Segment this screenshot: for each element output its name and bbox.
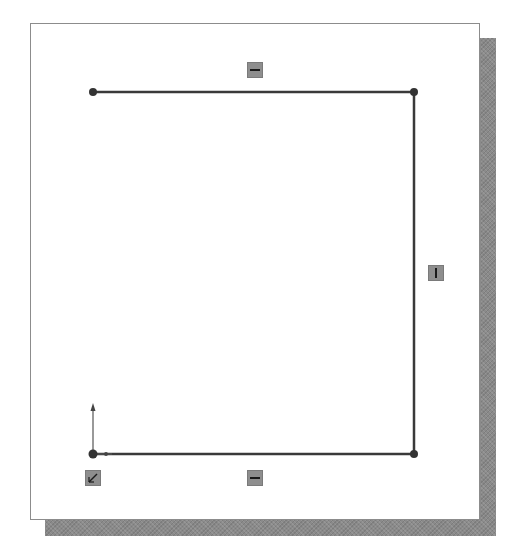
origin-axes-icon: [91, 403, 113, 456]
fixed-relation-icon[interactable]: [85, 470, 101, 486]
sketch-point-bottom-right[interactable]: [410, 450, 418, 458]
sketch-point-bottom-left[interactable]: [89, 450, 98, 459]
vertical-glyph: [435, 268, 437, 278]
vertical-relation-icon[interactable]: [428, 265, 444, 281]
horizontal-glyph: [250, 69, 260, 71]
fixed-glyph: [85, 470, 101, 486]
sketch-point-top-left[interactable]: [89, 88, 97, 96]
sketch-point-top-right[interactable]: [410, 88, 418, 96]
horizontal-glyph: [250, 477, 260, 479]
horizontal-relation-icon[interactable]: [247, 470, 263, 486]
horizontal-relation-icon[interactable]: [247, 62, 263, 78]
